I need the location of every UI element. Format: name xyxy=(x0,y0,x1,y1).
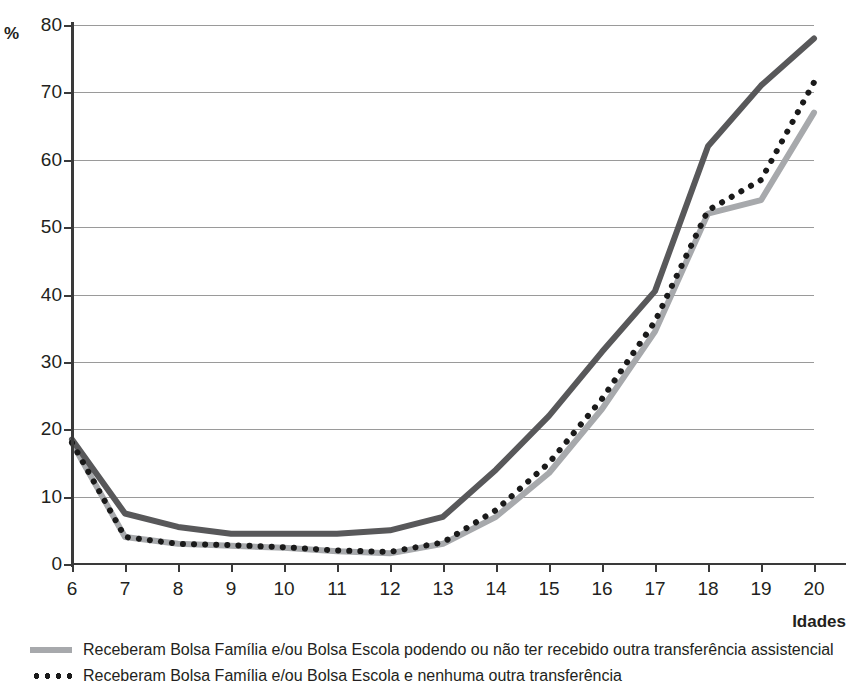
y-tick-label-50: 50 xyxy=(18,217,62,236)
legend-label-1: Receberam Bolsa Família e/ou Bolsa Escol… xyxy=(83,666,622,686)
legend-item-1: Receberam Bolsa Família e/ou Bolsa Escol… xyxy=(30,664,854,687)
x-axis-title: Idades xyxy=(792,612,846,632)
x-tick-label-14: 14 xyxy=(476,578,516,600)
x-tick-label-11: 11 xyxy=(317,578,357,600)
x-tick-mark-16 xyxy=(602,563,604,572)
chart-legend: Receberam Bolsa Família e/ou Bolsa Escol… xyxy=(30,638,854,687)
y-tick-label-70: 70 xyxy=(18,82,62,101)
x-tick-mark-15 xyxy=(549,563,551,572)
x-tick-mark-8 xyxy=(178,563,180,572)
legend-label-0: Receberam Bolsa Família e/ou Bolsa Escol… xyxy=(83,640,834,660)
plot-area xyxy=(72,25,814,564)
x-tick-label-15: 15 xyxy=(529,578,569,600)
x-tick-label-18: 18 xyxy=(688,578,728,600)
x-tick-label-7: 7 xyxy=(105,578,145,600)
x-tick-mark-12 xyxy=(390,563,392,572)
x-tick-label-10: 10 xyxy=(264,578,304,600)
y-tick-label-10: 10 xyxy=(18,487,62,506)
y-tick-label-60: 60 xyxy=(18,150,62,169)
x-tick-label-12: 12 xyxy=(370,578,410,600)
x-tick-mark-20 xyxy=(814,563,816,572)
series-line-light-gray xyxy=(72,113,814,554)
chart-container: % 01020304050607080 67891011121314151617… xyxy=(0,0,864,687)
x-tick-mark-18 xyxy=(708,563,710,572)
legend-item-0: Receberam Bolsa Família e/ou Bolsa Escol… xyxy=(30,638,854,662)
legend-swatch-dotted-black-icon xyxy=(30,664,72,687)
x-tick-label-8: 8 xyxy=(158,578,198,600)
y-tick-label-0: 0 xyxy=(18,554,62,573)
x-tick-mark-14 xyxy=(496,563,498,572)
x-tick-label-17: 17 xyxy=(635,578,675,600)
x-tick-label-16: 16 xyxy=(582,578,622,600)
x-tick-mark-13 xyxy=(443,563,445,572)
x-axis-line xyxy=(71,563,846,565)
series-line-dark-gray xyxy=(72,39,814,534)
x-tick-mark-7 xyxy=(125,563,127,572)
x-tick-mark-10 xyxy=(284,563,286,572)
x-tick-label-9: 9 xyxy=(211,578,251,600)
y-tick-label-30: 30 xyxy=(18,352,62,371)
y-axis-line xyxy=(71,22,74,567)
y-tick-label-40: 40 xyxy=(18,285,62,304)
x-tick-mark-11 xyxy=(337,563,339,572)
x-tick-mark-9 xyxy=(231,563,233,572)
x-tick-label-6: 6 xyxy=(52,578,92,600)
x-tick-mark-6 xyxy=(72,563,74,572)
x-tick-label-19: 19 xyxy=(741,578,781,600)
y-tick-label-20: 20 xyxy=(18,419,62,438)
x-tick-label-13: 13 xyxy=(423,578,463,600)
y-tick-label-80: 80 xyxy=(18,15,62,34)
x-tick-mark-19 xyxy=(761,563,763,572)
legend-swatch-solid-gray-icon xyxy=(30,638,72,662)
series-layer xyxy=(72,25,814,564)
x-tick-mark-17 xyxy=(655,563,657,572)
x-tick-label-20: 20 xyxy=(794,578,834,600)
